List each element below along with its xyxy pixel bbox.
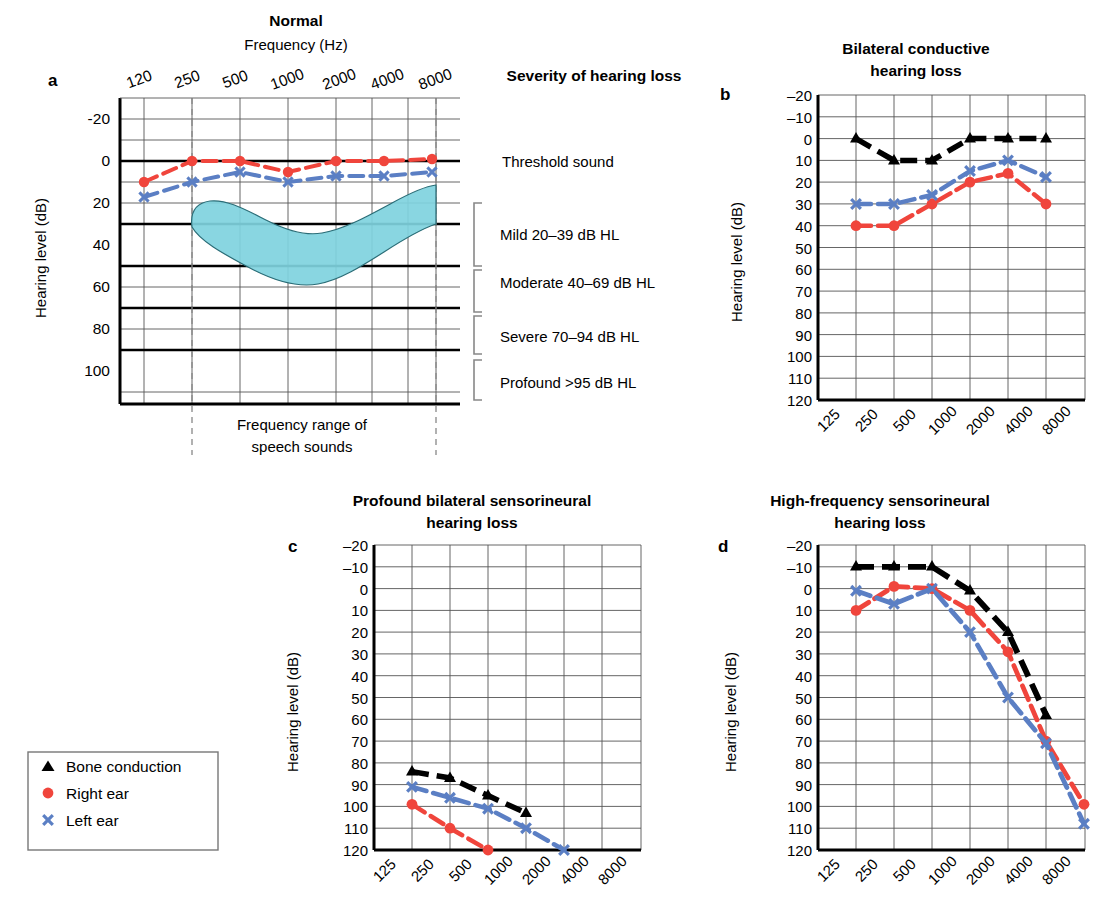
panel-d-ytick-11: 90 [795,777,812,794]
panel-c-xtick-5: 4000 [556,852,592,888]
panel-d-xticks: 125 250 500 1000 2000 4000 8000 [813,852,1074,888]
panel-c-ytick-0: –20 [343,537,368,554]
severity-list: Threshold sound Mild 20–39 dB HL Moderat… [474,153,655,400]
panel-c-xtick-1: 250 [407,855,437,885]
panel-a-xticks: 120 250 500 1000 2000 4000 8000 [124,65,455,93]
panel-b-ytick-14: 120 [787,392,812,409]
panel-d-title-line1: High-frequency sensorineural [770,492,990,509]
panel-c-ytick-7: 50 [351,690,368,707]
panel-c-ytick-6: 40 [351,668,368,685]
panel-a-ytick-6: 100 [84,362,110,379]
panel-c-xticks: 125 250 500 1000 2000 4000 8000 [369,852,630,888]
panel-a-xlabel: Frequency (Hz) [244,36,347,53]
panel-a-ytick-1: 0 [101,152,110,169]
panel-d: High-frequency sensorineural hearing los… [718,492,1089,888]
severity-item-2-label: Moderate 40–69 dB HL [500,274,655,291]
severity-bracket-profound [474,360,482,400]
panel-b-ytick-10: 80 [795,305,812,322]
circle-icon [43,788,54,799]
panel-b-xtick-6: 8000 [1038,402,1074,438]
panel-b-title-line2: hearing loss [870,62,961,79]
panel-d-ytick-2: 0 [804,581,812,598]
panel-a-ytick-4: 60 [93,278,111,295]
panel-d-ytick-0: –20 [787,537,812,554]
legend-label-0: Bone conduction [66,758,181,775]
panel-c-title-line1: Profound bilateral sensorineural [353,492,592,509]
severity-bracket-severe [474,316,482,354]
panel-d-ytick-3: 10 [795,602,812,619]
panel-d-xtick-1: 250 [851,855,881,885]
panel-c-xtick-3: 1000 [480,852,516,888]
panel-b-xticks: 125 250 500 1000 2000 4000 8000 [813,402,1074,438]
panel-d-ytick-1: –10 [787,559,812,576]
panel-a-yticks: -20 0 20 40 60 80 100 [84,110,110,379]
series-legend: Bone conduction Right ear Left ear [28,752,218,850]
panel-d-ytick-10: 80 [795,755,812,772]
panel-a: Normal Frequency (Hz) a Hearing level (d… [32,12,681,455]
panel-c-ytick-3: 10 [351,602,368,619]
severity-item-4-label: Profound >95 dB HL [500,374,636,391]
panel-b-xtick-3: 1000 [924,402,960,438]
panel-a-xtick-5: 4000 [368,65,407,93]
panel-a-ylabel: Hearing level (dB) [32,198,49,318]
severity-item-3-label: Severe 70–94 dB HL [500,328,639,345]
panel-b: Bilateral conductive hearing loss b Hear… [720,40,1085,438]
panel-b-ylabel: Hearing level (dB) [728,202,745,322]
panel-b-ytick-0: –20 [787,87,812,104]
panel-d-xtick-4: 2000 [962,852,998,888]
panel-b-letter: b [720,85,730,104]
panel-b-ytick-2: 0 [804,131,812,148]
panel-a-xtick-3: 1000 [268,65,307,93]
panel-c-ytick-14: 120 [343,842,368,859]
panel-c-ytick-2: 0 [360,581,368,598]
panel-c-yticks: –20 –10 0 10 20 30 40 50 60 70 80 90 100… [343,537,368,859]
panel-c-letter: c [288,537,297,556]
panel-a-ytick-0: -20 [88,110,111,127]
panel-b-xtick-4: 2000 [962,402,998,438]
panel-d-title-line2: hearing loss [834,514,925,531]
panel-d-ytick-5: 30 [795,646,812,663]
panel-a-xtick-2: 500 [220,66,250,91]
panel-a-letter: a [48,71,58,90]
panel-b-xtick-2: 500 [889,405,919,435]
panel-b-ytick-6: 40 [795,218,812,235]
panel-b-xtick-0: 125 [813,405,843,435]
panel-c-ytick-1: –10 [343,559,368,576]
panel-c: Profound bilateral sensorineural hearing… [284,492,641,888]
severity-bracket-mild [474,203,482,266]
panel-a-xtick-1: 250 [172,66,202,91]
panel-a-xtick-4: 2000 [320,65,359,93]
panel-b-ytick-11: 90 [795,327,812,344]
panel-c-xtick-2: 500 [445,855,475,885]
panel-c-ytick-4: 20 [351,624,368,641]
severity-item-0-label: Threshold sound [502,153,614,170]
severity-item-1-label: Mild 20–39 dB HL [500,226,619,243]
panel-b-ytick-13: 110 [788,370,812,387]
panel-c-ytick-13: 110 [344,820,368,837]
panel-d-xtick-2: 500 [889,855,919,885]
panel-c-ytick-9: 70 [351,733,368,750]
panel-b-ytick-12: 100 [787,348,812,365]
panel-d-yticks: –20 –10 0 10 20 30 40 50 60 70 80 90 100… [787,537,812,859]
audiogram-figure: Normal Frequency (Hz) a Hearing level (d… [0,0,1098,912]
panel-a-ytick-2: 20 [93,194,111,211]
panel-d-ytick-9: 70 [795,733,812,750]
panel-b-xtick-5: 4000 [1000,402,1036,438]
panel-d-ytick-8: 60 [795,711,812,728]
panel-d-ytick-4: 20 [795,624,812,641]
panel-d-xtick-5: 4000 [1000,852,1036,888]
panel-a-footnote-line2: speech sounds [252,438,353,455]
figure-canvas: Normal Frequency (Hz) a Hearing level (d… [0,0,1098,912]
panel-b-ytick-4: 20 [795,174,812,191]
panel-c-ylabel: Hearing level (dB) [284,652,301,772]
panel-a-ytick-3: 40 [93,236,111,253]
panel-a-footnote-line1: Frequency range of [237,416,368,433]
panel-c-xtick-4: 2000 [518,852,554,888]
panel-a-title: Normal [269,12,322,29]
panel-b-title-line1: Bilateral conductive [842,40,990,57]
panel-a-xtick-0: 120 [124,66,154,91]
panel-a-xtick-6: 8000 [416,65,455,93]
panel-b-xtick-1: 250 [851,405,881,435]
panel-d-xtick-0: 125 [813,855,843,885]
panel-b-ytick-3: 10 [795,152,812,169]
